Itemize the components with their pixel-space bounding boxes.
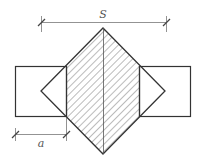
hatched-strip [60, 20, 150, 160]
dimension-a-label: a [38, 137, 45, 150]
dimension-a: a [12, 118, 70, 150]
diagram-canvas: S a [0, 0, 203, 166]
dimension-s-label: S [99, 8, 107, 21]
